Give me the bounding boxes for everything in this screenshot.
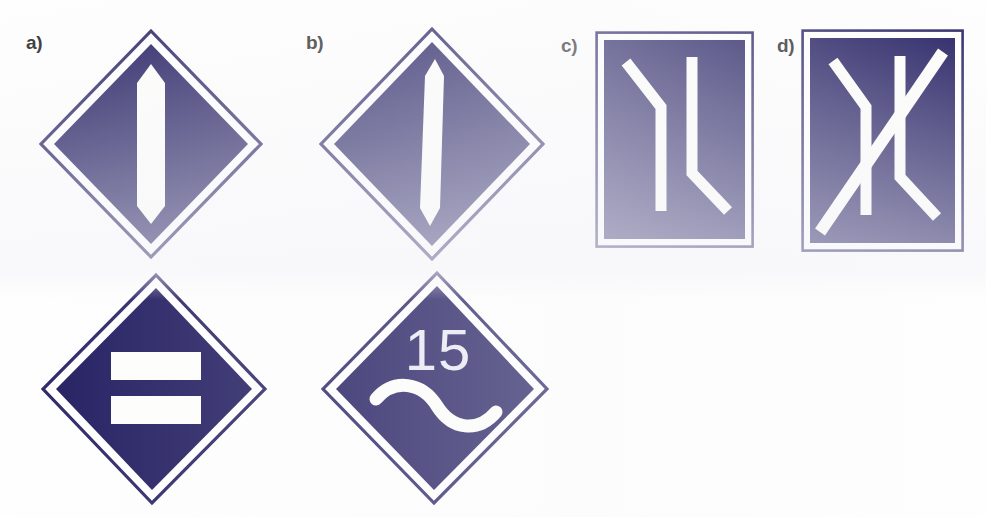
sign-b-bottom[interactable]: 15 — [320, 270, 550, 506]
figure-canvas: a) b) c) d) — [0, 0, 986, 517]
lane-marking-bar-upper — [111, 352, 201, 380]
sign-a-top[interactable] — [38, 28, 264, 260]
lane-marking-bar-lower — [111, 396, 201, 424]
sign-speed-text: 15 — [405, 317, 472, 382]
sign-d[interactable] — [801, 29, 965, 253]
sign-a-bottom[interactable] — [40, 272, 268, 506]
sign-plate-fill — [56, 288, 252, 490]
lane-marking-vertical-bar — [137, 64, 165, 224]
figure-label-c: c) — [561, 36, 577, 55]
figure-label-d: d) — [777, 36, 794, 55]
sign-c[interactable] — [595, 31, 755, 249]
sign-b-top[interactable] — [318, 26, 546, 262]
